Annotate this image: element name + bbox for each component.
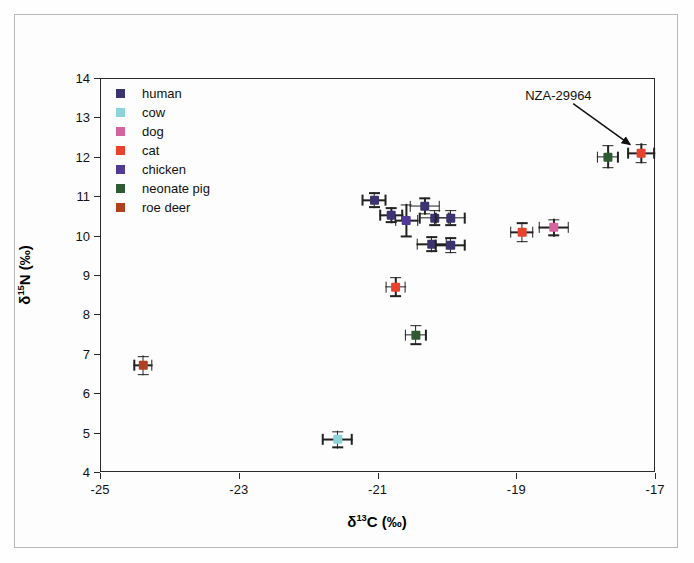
- legend-swatch-icon: [116, 184, 125, 193]
- x-tick-label: -23: [229, 482, 248, 497]
- legend-swatch-icon: [116, 165, 125, 174]
- error-cap: [435, 212, 437, 223]
- data-point-dog: [538, 219, 569, 236]
- error-cap: [322, 434, 324, 445]
- marker-cow: [333, 435, 342, 444]
- legend-item-label: neonate pig: [142, 182, 210, 195]
- error-cap: [351, 434, 353, 445]
- x-tick-label: -21: [368, 482, 387, 497]
- legend-item-cat[interactable]: cat: [116, 141, 266, 160]
- legend-item-dog[interactable]: dog: [116, 122, 266, 141]
- error-cap: [597, 151, 599, 162]
- data-point-cow: [322, 431, 353, 448]
- legend-swatch-icon: [116, 89, 125, 98]
- error-cap: [510, 227, 512, 238]
- marker-cat: [391, 282, 400, 291]
- data-point-human: [435, 210, 466, 226]
- error-cap: [567, 222, 569, 233]
- y-tick-label: 9: [62, 268, 90, 283]
- marker-cat: [637, 149, 646, 158]
- error-cap: [369, 192, 380, 194]
- data-point-human: [435, 238, 466, 254]
- legend: humancowdogcatchickenneonate pigroe deer: [116, 84, 266, 217]
- marker-neonate-pig: [411, 330, 420, 339]
- legend-item-label: chicken: [142, 163, 186, 176]
- y-tick-label: 4: [62, 465, 90, 480]
- marker-human: [446, 213, 455, 222]
- error-cap: [617, 151, 619, 162]
- data-point-neonate-pig: [405, 325, 427, 345]
- marker-chicken: [402, 216, 411, 225]
- error-cap: [602, 167, 613, 169]
- error-cap: [445, 210, 456, 212]
- error-cap: [332, 447, 343, 449]
- y-tick-label: 12: [62, 149, 90, 164]
- error-cap: [380, 210, 382, 221]
- marker-cat: [517, 228, 526, 237]
- error-cap: [464, 212, 466, 223]
- x-tick-mark: [378, 473, 379, 479]
- data-point-cat: [385, 277, 406, 297]
- error-cap: [636, 144, 647, 146]
- data-point-cat: [627, 144, 655, 164]
- error-cap: [410, 343, 421, 345]
- data-point-chicken: [395, 204, 419, 237]
- legend-item-label: human: [142, 87, 182, 100]
- error-cap: [390, 277, 401, 279]
- y-tick-label: 10: [62, 228, 90, 243]
- error-cap: [401, 204, 412, 206]
- legend-item-human[interactable]: human: [116, 84, 266, 103]
- error-cap: [405, 329, 407, 340]
- error-cap: [385, 195, 387, 206]
- error-cap: [516, 241, 527, 243]
- y-tick-label: 6: [62, 386, 90, 401]
- error-cap: [532, 227, 534, 238]
- data-point-neonate-pig: [597, 145, 619, 169]
- x-tick-mark: [655, 473, 656, 479]
- error-cap: [410, 325, 421, 327]
- legend-item-chicken[interactable]: chicken: [116, 160, 266, 179]
- y-tick-label: 5: [62, 425, 90, 440]
- error-cap: [538, 222, 540, 233]
- marker-human: [370, 196, 379, 205]
- error-cap: [133, 360, 135, 371]
- legend-item-roe-deer[interactable]: roe deer: [116, 198, 266, 217]
- error-cap: [445, 252, 456, 254]
- error-cap: [417, 215, 419, 226]
- legend-item-neonate-pig[interactable]: neonate pig: [116, 179, 266, 198]
- error-cap: [419, 212, 421, 223]
- error-cap: [445, 238, 456, 240]
- legend-swatch-icon: [116, 127, 125, 136]
- data-point-human: [362, 192, 387, 208]
- x-tick-label: -25: [91, 482, 110, 497]
- legend-item-label: dog: [142, 125, 164, 138]
- error-cap: [385, 281, 387, 292]
- y-tick-label: 14: [62, 71, 90, 86]
- legend-item-label: roe deer: [142, 201, 190, 214]
- x-tick-mark: [100, 473, 101, 479]
- legend-swatch-icon: [116, 146, 125, 155]
- error-cap: [653, 148, 655, 159]
- data-point-cat: [510, 223, 534, 243]
- figure-container: δ15N (‰) δ13C (‰) 4567891011121314 -25-2…: [0, 0, 694, 563]
- error-cap: [137, 356, 148, 358]
- error-cap: [416, 239, 418, 250]
- error-cap: [425, 329, 427, 340]
- error-cap: [332, 431, 343, 433]
- error-cap: [602, 145, 613, 147]
- error-cap: [362, 195, 364, 206]
- legend-swatch-icon: [116, 108, 125, 117]
- legend-item-cow[interactable]: cow: [116, 103, 266, 122]
- marker-dog: [549, 223, 558, 232]
- error-cap: [151, 360, 153, 371]
- x-tick-label: -19: [507, 482, 526, 497]
- data-point-roe-deer: [133, 356, 152, 376]
- legend-item-label: cat: [142, 144, 159, 157]
- y-tick-label: 8: [62, 307, 90, 322]
- y-tick-label: 13: [62, 110, 90, 125]
- error-cap: [395, 215, 397, 226]
- error-cap: [627, 148, 629, 159]
- marker-neonate-pig: [603, 152, 612, 161]
- y-tick-label: 11: [62, 189, 90, 204]
- error-cap: [401, 236, 412, 238]
